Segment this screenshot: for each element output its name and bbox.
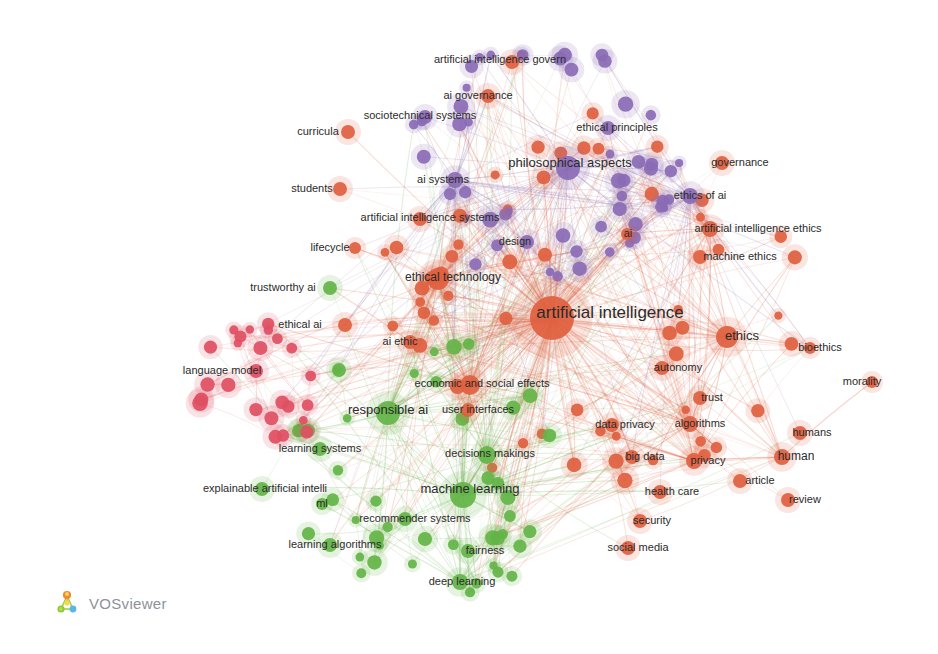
network-node-minor: [247, 335, 273, 361]
network-node-minor: [745, 398, 770, 423]
network-node-minor: [270, 390, 295, 415]
network-node-minor: [646, 135, 669, 158]
network-node-label: health care: [645, 485, 699, 497]
network-node-minor: [537, 423, 562, 448]
network-node-minor: [449, 235, 468, 254]
network-node-label: fairness: [466, 544, 505, 556]
network-node-minor: [604, 166, 633, 195]
network-node-label: artificial intelligence: [536, 303, 683, 322]
network-node-label: lifecycle: [310, 241, 349, 253]
network-node-minor: [328, 461, 347, 480]
network-node-minor: [225, 321, 242, 338]
network-node-label: ethical technology: [405, 270, 501, 284]
network-node-minor: [404, 556, 421, 573]
network-node-label: artificial intelligence govern: [434, 53, 566, 65]
network-node-label: ethics: [725, 328, 759, 343]
network-node-minor: [650, 196, 672, 218]
network-node[interactable]: [317, 275, 343, 301]
network-node-minor: [590, 216, 612, 238]
network-node-minor: [782, 244, 808, 270]
network-node-label: human: [778, 449, 815, 463]
network-node-minor: [565, 398, 588, 421]
network-node-label: students: [291, 182, 333, 194]
network-node-label: machine ethics: [703, 250, 777, 262]
network-node-label: ethical ai: [278, 318, 321, 330]
network-node-minor: [601, 243, 619, 261]
network-node-label: user interfaces: [442, 403, 515, 415]
network-node-minor: [486, 558, 501, 573]
network-canvas-container[interactable]: artificial intelligencephilosophical asp…: [0, 0, 938, 654]
network-node-label: deep learning: [429, 575, 496, 587]
network-node-label: social media: [607, 541, 669, 553]
network-node-label: humans: [792, 426, 832, 438]
network-node-minor: [592, 49, 617, 74]
network-node-label: algorithms: [675, 417, 726, 429]
network-node-label: governance: [711, 156, 769, 168]
network-node-label: machine learning: [420, 481, 519, 496]
network-node-minor: [611, 90, 640, 119]
network-node-label: artificial intelligence systems: [361, 211, 500, 223]
network-node-minor: [244, 397, 269, 422]
network-node-minor: [411, 144, 437, 170]
network-node-label: learning algorithms: [289, 538, 382, 550]
network-node-label: recommender systems: [359, 512, 471, 524]
network-node-label: ai ethic: [383, 335, 418, 347]
network-node-minor: [297, 394, 319, 416]
network-node-label: trustworthy ai: [250, 281, 315, 293]
network-node-label: learning systems: [279, 442, 362, 454]
network-node-label: data privacy: [595, 418, 655, 430]
network-node-minor: [295, 412, 311, 428]
network-node-label: security: [633, 514, 671, 526]
network-node-minor: [638, 156, 664, 182]
network-node-label: ml: [316, 497, 328, 509]
network-node-label: explainable artificial intelli: [203, 482, 327, 494]
vosviewer-network-map[interactable]: artificial intelligencephilosophical asp…: [0, 0, 938, 654]
network-node-minor: [565, 240, 588, 263]
network-node-minor: [771, 308, 786, 323]
network-node-label: ai: [624, 227, 633, 239]
network-node-label: ethics of ai: [674, 189, 727, 201]
vosviewer-logo-icon: [52, 588, 82, 618]
network-node-minor: [424, 311, 444, 331]
network-node-label: privacy: [691, 454, 726, 466]
network-node-label: ai systems: [417, 173, 469, 185]
network-node-label: autonomy: [654, 361, 703, 373]
network-node-minor: [458, 333, 480, 355]
network-node-label: curricula: [297, 125, 339, 137]
network-node-minor: [257, 312, 280, 335]
network-node-label: responsible ai: [348, 402, 428, 417]
network-node-minor: [384, 235, 409, 260]
network-node-minor: [329, 362, 345, 378]
network-node-label: language model: [183, 364, 261, 376]
network-node-minor: [301, 366, 321, 386]
network-graph-svg[interactable]: artificial intelligencephilosophical asp…: [0, 0, 938, 654]
network-node-label: philosophical aspects: [508, 155, 632, 170]
network-node-minor: [242, 322, 258, 338]
network-node-label: ethical principles: [576, 121, 658, 133]
network-node-label: review: [789, 493, 821, 505]
network-node-label: morality: [843, 375, 882, 387]
network-node-label: design: [499, 235, 531, 247]
network-node-label: sociotechnical systems: [364, 109, 477, 121]
network-node[interactable]: [332, 312, 358, 338]
vosviewer-logo: VOSviewer: [52, 588, 167, 618]
network-node-label: decisions makings: [445, 447, 535, 459]
network-node-minor: [366, 491, 387, 512]
vosviewer-logo-label: VOSviewer: [89, 595, 167, 612]
network-node-minor: [352, 549, 368, 565]
network-node[interactable]: [335, 119, 361, 145]
network-node-label: artificial intelligence ethics: [694, 222, 822, 234]
network-node-label: bioethics: [798, 341, 842, 353]
network-node-minor: [198, 335, 222, 359]
network-node-label: big data: [625, 450, 665, 462]
network-node-label: article: [745, 474, 774, 486]
network-node-minor: [383, 316, 403, 336]
network-node-minor: [561, 451, 588, 478]
network-node-minor: [412, 526, 438, 552]
network-node-minor: [487, 167, 504, 184]
network-node-label: economic and social effects: [415, 377, 550, 389]
network-node-label: trust: [701, 391, 722, 403]
network-node-minor: [518, 519, 542, 543]
network-node-label: ai governance: [443, 89, 512, 101]
